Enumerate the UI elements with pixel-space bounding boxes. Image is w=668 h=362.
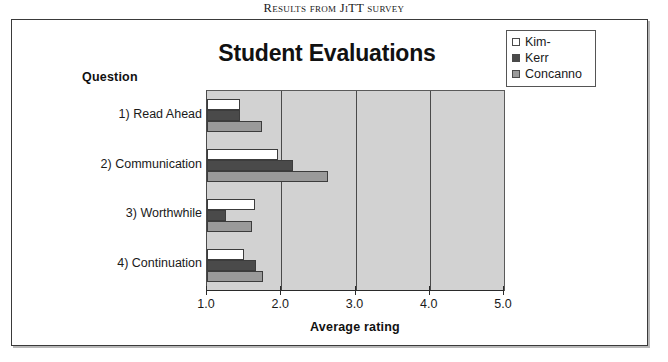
legend-label: Kerr: [525, 51, 549, 65]
bar: [207, 210, 226, 221]
bar: [207, 160, 293, 171]
x-axis-tick-label: 2.0: [272, 297, 289, 311]
x-axis-tick-mark: [503, 286, 504, 295]
bar: [207, 110, 240, 121]
x-axis-tick-label: 3.0: [346, 297, 363, 311]
legend-swatch-icon: [512, 70, 520, 78]
legend-item: Kim-: [512, 34, 590, 50]
bar: [207, 260, 256, 271]
bar-group: [207, 191, 504, 241]
x-axis-tick-label: 4.0: [420, 297, 437, 311]
bar: [207, 271, 263, 282]
x-axis-tick-label: 5.0: [494, 297, 511, 311]
chart-title: Student Evaluations: [162, 40, 492, 67]
legend-label: Concanno: [525, 67, 582, 81]
legend-swatch-icon: [512, 38, 520, 46]
bar: [207, 199, 255, 210]
chart-legend: Kim-KerrConcanno: [506, 30, 596, 87]
bar-group: [207, 240, 504, 290]
x-axis-title: Average rating: [206, 320, 504, 334]
legend-swatch-icon: [512, 54, 520, 62]
y-axis-tick-label: 3) Worthwhile: [126, 206, 202, 220]
x-axis-tick-mark: [355, 286, 356, 295]
y-axis-tick-label: 2) Communication: [101, 157, 202, 171]
bar: [207, 249, 244, 260]
plot-area: [206, 90, 505, 291]
bar-group: [207, 141, 504, 191]
bar-group: [207, 91, 504, 141]
x-axis-tick-mark: [206, 286, 207, 295]
y-axis-tick-labels: 1) Read Ahead2) Communication3) Worthwhi…: [62, 90, 202, 289]
legend-item: Concanno: [512, 66, 590, 82]
bar: [207, 99, 240, 110]
x-axis-tick-mark: [429, 286, 430, 295]
bar: [207, 171, 328, 182]
bar: [207, 221, 252, 232]
x-axis-tick-label: 1.0: [197, 297, 214, 311]
bar: [207, 149, 278, 160]
figure-caption: Results from JiTT survey: [0, 1, 668, 16]
y-axis-tick-label: 4) Continuation: [117, 256, 202, 270]
x-axis-tick-mark: [280, 286, 281, 295]
bar: [207, 121, 262, 132]
legend-item: Kerr: [512, 50, 590, 66]
y-axis-title: Question: [82, 70, 138, 84]
legend-label: Kim-: [525, 35, 551, 49]
figure-frame: Student Evaluations Kim-KerrConcanno Que…: [11, 19, 648, 346]
y-axis-tick-label: 1) Read Ahead: [119, 107, 202, 121]
